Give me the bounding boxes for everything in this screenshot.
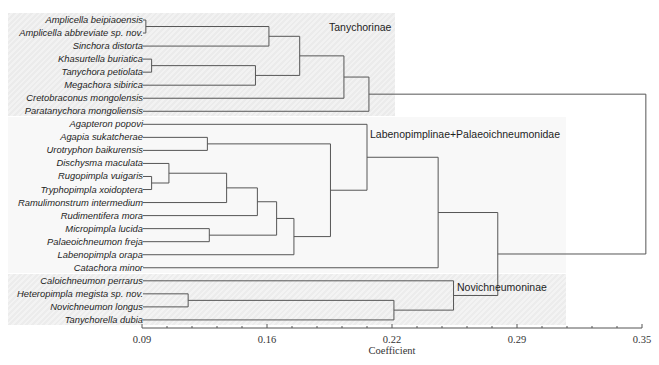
leaf-label: Cretobraconus mongolensis bbox=[26, 92, 143, 104]
leaf-label: Khasurtella buriatica bbox=[58, 53, 143, 65]
leaf-label: Labenopimpla orapa bbox=[58, 249, 143, 261]
leaf-label: Urotryphon baikurensis bbox=[47, 144, 143, 156]
leaf-label: Megachora sibirica bbox=[64, 79, 143, 91]
x-tick-label: 0.35 bbox=[633, 334, 651, 345]
x-tick-label: 0.29 bbox=[508, 334, 526, 345]
leaf-label: Rudimentifera mora bbox=[61, 210, 143, 222]
leaf-label: Tryphopimpla xoidoptera bbox=[41, 184, 143, 196]
leaf-label: Novichneumon longus bbox=[50, 301, 143, 313]
leaf-label: Amplicella abbreviate sp. nov. bbox=[19, 27, 143, 39]
leaf-label: Ramulimonstrum intermedium bbox=[18, 197, 143, 209]
leaf-label: Heteropimpla megista sp. nov. bbox=[17, 288, 143, 300]
x-axis-title: Coefficient bbox=[368, 345, 415, 356]
dendrogram-chart: Amplicella beipiaoensis Amplicella abbre… bbox=[0, 0, 659, 365]
leaf-label: Rugopimpla vuigaris bbox=[58, 170, 143, 182]
leaf-label: Palaeoichneumon freja bbox=[47, 236, 143, 248]
x-tick-label: 0.22 bbox=[383, 334, 401, 345]
x-tick-label: 0.16 bbox=[258, 334, 276, 345]
leaf-label: Catachora minor bbox=[74, 262, 143, 274]
clade-label-novichneumoninae: Novichneumoninae bbox=[457, 281, 547, 293]
leaf-label: Sinchora distorta bbox=[73, 40, 143, 52]
leaf-label: Agapia sukatcherae bbox=[60, 131, 143, 143]
leaf-label: Dischysma maculata bbox=[57, 157, 144, 169]
clade-label-tanychorinae: Tanychorinae bbox=[329, 21, 391, 33]
leaf-label: Tanychorella dubia bbox=[65, 314, 143, 326]
leaf-label: Amplicella beipiaoensis bbox=[46, 14, 143, 26]
x-tick-label: 0.09 bbox=[133, 334, 151, 345]
leaf-label: Agapteron popovi bbox=[70, 118, 144, 130]
leaf-label: Paratanychora mongoliensis bbox=[25, 105, 143, 117]
clade-label-labenopimplinae-palaeoichneumonidae: Labenopimplinae+Palaeoichneumonidae bbox=[370, 128, 560, 140]
leaf-label: Micropimpla lucida bbox=[65, 223, 143, 235]
leaf-label: Caloichneumon perrarus bbox=[40, 275, 143, 287]
leaf-label: Tanychora petiolata bbox=[62, 66, 143, 78]
